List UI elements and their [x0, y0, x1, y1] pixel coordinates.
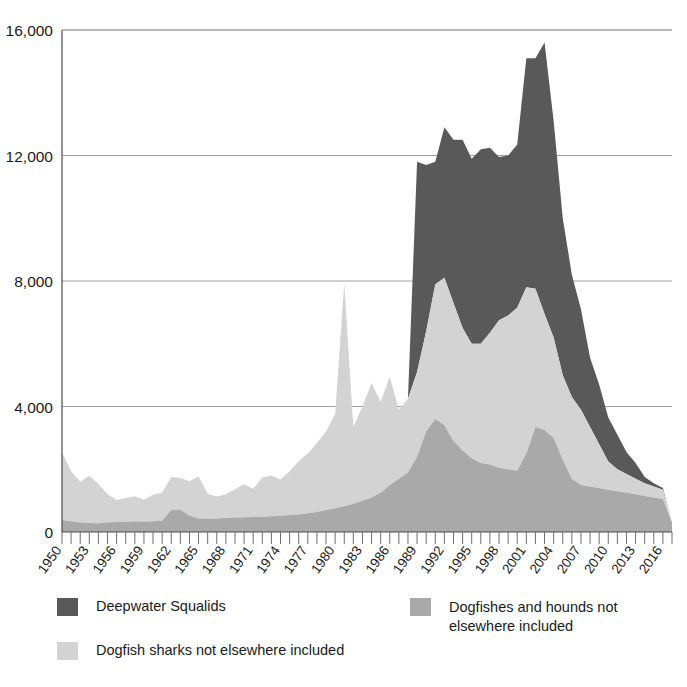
y-axis-tick-label: 0 — [44, 524, 53, 541]
x-axis-tick-label: 2013 — [609, 543, 639, 576]
chart-legend: Deepwater Squalids Dogfishes and hounds … — [0, 592, 687, 687]
x-axis-tick-label: 1977 — [281, 543, 311, 576]
x-axis-tick-label: 1998 — [472, 543, 502, 576]
x-axis-tick-label: 1968 — [199, 543, 229, 576]
x-axis-tick-label: 2010 — [581, 543, 611, 576]
x-axis-tick-label: 1986 — [363, 543, 393, 576]
y-axis-labels: 16,00012,0008,0004,0000 — [6, 22, 54, 541]
area-series-group — [62, 43, 672, 532]
legend-swatch-deepwater-squalids — [57, 598, 78, 616]
x-axis-tick-label: 2016 — [636, 543, 666, 576]
x-axis-tick-label: 1962 — [144, 543, 174, 576]
y-axis-tick-label: 16,000 — [6, 22, 54, 39]
x-axis-ticks — [62, 532, 672, 544]
legend-swatch-dogfishes-and-hounds — [410, 598, 431, 616]
legend-item-dogfish-sharks: Dogfish sharks not elsewhere included — [57, 642, 344, 660]
x-axis-tick-label: 2001 — [499, 543, 529, 576]
x-axis-tick-label: 1980 — [308, 543, 338, 576]
stacked-area-chart: 16,00012,0008,0004,0000 1950195319561959… — [0, 0, 687, 687]
x-axis-tick-label: 1974 — [253, 543, 283, 577]
x-axis-tick-label: 1989 — [390, 543, 420, 576]
legend-label-dogfishes-and-hounds-line2: elsewhere included — [449, 617, 618, 636]
x-axis-tick-label: 1956 — [90, 543, 120, 576]
x-axis-tick-label: 1950 — [35, 543, 65, 576]
x-axis-tick-label: 1983 — [335, 543, 365, 576]
y-axis-tick-label: 8,000 — [14, 273, 53, 290]
legend-label-deepwater-squalids: Deepwater Squalids — [96, 598, 226, 615]
legend-item-deepwater-squalids: Deepwater Squalids — [57, 598, 226, 616]
legend-label-dogfish-sharks: Dogfish sharks not elsewhere included — [96, 642, 344, 659]
x-axis-tick-label: 1971 — [226, 543, 256, 576]
legend-item-dogfishes-and-hounds: Dogfishes and hounds not elsewhere inclu… — [410, 598, 618, 636]
x-axis-tick-label: 1995 — [445, 543, 475, 576]
x-axis-tick-label: 1959 — [117, 543, 147, 576]
legend-swatch-dogfish-sharks — [57, 642, 78, 660]
y-axis-tick-label: 4,000 — [14, 399, 53, 416]
legend-label-dogfishes-and-hounds-line1: Dogfishes and hounds not — [449, 598, 618, 617]
x-axis-tick-label: 1953 — [62, 543, 92, 576]
x-axis-labels: 1950195319561959196219651968197119741977… — [35, 543, 665, 577]
chart-canvas: 16,00012,0008,0004,0000 1950195319561959… — [0, 0, 687, 687]
x-axis-tick-label: 1965 — [172, 543, 202, 576]
x-axis-tick-label: 2007 — [554, 543, 584, 576]
y-axis-tick-label: 12,000 — [6, 148, 54, 165]
x-axis-tick-label: 2004 — [527, 543, 557, 577]
x-axis-tick-label: 1992 — [417, 543, 447, 576]
